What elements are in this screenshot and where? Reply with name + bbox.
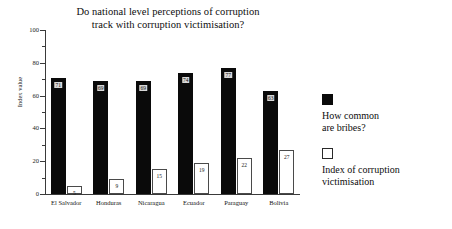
- bar-bribes: 69: [93, 81, 108, 194]
- y-tick-major: [40, 96, 45, 97]
- y-axis-line: [45, 30, 46, 194]
- bar-value-label: 69: [140, 85, 148, 91]
- y-tick-label: 60: [9, 93, 39, 100]
- y-tick-minor: [42, 178, 45, 179]
- legend-label-bribes: How common are bribes?: [322, 110, 448, 135]
- x-category-label: Honduras: [88, 199, 131, 206]
- bar-value-label: 15: [157, 173, 163, 179]
- legend-swatch-filled-icon: [322, 94, 333, 105]
- bar-bribes: 71: [51, 78, 66, 194]
- y-tick-major: [40, 128, 45, 129]
- bar-victimisation: 27: [279, 150, 294, 194]
- bar-value-label: 74: [182, 77, 190, 83]
- bar-victimisation: 15: [152, 169, 167, 194]
- y-tick-minor: [42, 79, 45, 80]
- legend-label-victimisation: Index of corruption victimisation: [322, 164, 448, 189]
- bar-value-label: 63: [267, 95, 275, 101]
- x-category-label: Nicaragua: [130, 199, 173, 206]
- legend-swatch-outlined-icon: [322, 148, 333, 159]
- bar-victimisation: 5: [67, 186, 82, 194]
- bar-value-label: 5: [73, 190, 76, 196]
- chart-title-line-1: Do national level perceptions of corrupt…: [42, 6, 294, 19]
- bar-value-label: 77: [225, 72, 233, 78]
- y-tick-minor: [42, 46, 45, 47]
- bar-victimisation: 22: [237, 158, 252, 194]
- legend-label-bribes-line-2: are bribes?: [322, 122, 448, 134]
- bar-value-label: 71: [55, 82, 63, 88]
- chart-figure: Do national level perceptions of corrupt…: [0, 0, 452, 229]
- bar-bribes: 63: [263, 91, 278, 194]
- bar-victimisation: 19: [194, 163, 209, 194]
- x-category-label: Paraguay: [215, 199, 258, 206]
- legend-label-victimisation-line-2: victimisation: [322, 176, 448, 188]
- legend-label-bribes-line-1: How common: [322, 110, 448, 122]
- plot-area: 020406080100 7156996915741977226327 El S…: [45, 30, 300, 194]
- x-category-label: El Salvador: [45, 199, 88, 206]
- chart-legend: How common are bribes? Index of corrupti…: [322, 92, 448, 200]
- bar-value-label: 19: [199, 167, 205, 173]
- bar-bribes: 74: [178, 73, 193, 194]
- bar-bribes: 77: [221, 68, 236, 194]
- y-tick-minor: [42, 112, 45, 113]
- x-axis-line: [45, 194, 300, 195]
- bar-victimisation: 9: [109, 179, 124, 194]
- y-tick-major: [40, 161, 45, 162]
- x-category-label: Ecuador: [173, 199, 216, 206]
- y-tick-major: [40, 30, 45, 31]
- y-tick-label: 80: [9, 60, 39, 67]
- bar-value-label: 22: [242, 162, 248, 168]
- bar-value-label: 27: [284, 154, 290, 160]
- y-tick-label: 100: [9, 27, 39, 34]
- bar-value-label: 9: [115, 183, 118, 189]
- legend-label-victimisation-line-1: Index of corruption: [322, 164, 448, 176]
- y-tick-major: [40, 63, 45, 64]
- y-tick-label: 40: [9, 125, 39, 132]
- bar-value-label: 69: [97, 85, 105, 91]
- y-tick-label: 0: [9, 191, 39, 198]
- legend-item-victimisation: Index of corruption victimisation: [322, 146, 448, 189]
- y-tick-minor: [42, 145, 45, 146]
- y-tick-major: [40, 194, 45, 195]
- chart-title: Do national level perceptions of corrupt…: [42, 6, 294, 31]
- x-category-label: Bolivia: [258, 199, 301, 206]
- legend-item-bribes: How common are bribes?: [322, 92, 448, 135]
- bar-bribes: 69: [136, 81, 151, 194]
- y-tick-label: 20: [9, 158, 39, 165]
